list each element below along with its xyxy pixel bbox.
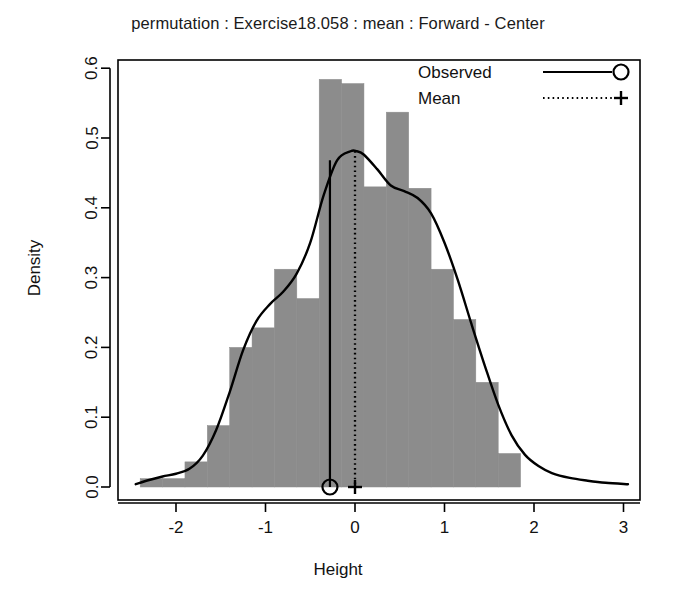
histogram-bar (386, 112, 408, 487)
y-axis-tick-label: 0.1 (83, 405, 102, 429)
histogram-bar (431, 269, 453, 487)
histogram-bar (274, 269, 296, 487)
x-axis-tick-label: 2 (529, 518, 538, 537)
x-axis-tick-label: 0 (350, 518, 359, 537)
histogram-bar (297, 299, 319, 487)
histogram-bar (453, 319, 475, 487)
legend-circle-icon (614, 65, 629, 80)
x-axis: -2-10123 (118, 503, 640, 537)
x-axis-tick-label: 1 (440, 518, 449, 537)
histogram-bar (409, 188, 431, 487)
legend-plus-icon (614, 91, 628, 105)
y-axis-tick-label: 0.2 (83, 336, 102, 360)
histogram-bar (342, 84, 364, 487)
histogram-bar (498, 454, 520, 488)
y-axis: 0.00.10.20.30.40.50.6 (83, 56, 111, 498)
histogram-bar (252, 328, 274, 487)
histogram-bar (163, 479, 185, 487)
y-axis-tick-label: 0.5 (83, 126, 102, 150)
x-axis-tick-label: 3 (619, 518, 628, 537)
legend-label-mean: Mean (418, 89, 461, 108)
histogram-bar (230, 347, 252, 487)
x-axis-tick-label: -1 (258, 518, 273, 537)
y-axis-tick-label: 0.4 (83, 196, 102, 220)
y-axis-tick-label: 0.3 (83, 266, 102, 290)
plot-area: -2-10123 0.00.10.20.30.40.50.6 ObservedM… (0, 0, 676, 609)
y-axis-tick-label: 0.6 (83, 56, 102, 80)
x-axis-tick-label: -2 (168, 518, 183, 537)
chart-canvas: permutation : Exercise18.058 : mean : Fo… (0, 0, 676, 609)
y-axis-tick-label: 0.0 (83, 475, 102, 499)
histogram-bar (185, 462, 207, 487)
legend-label-observed: Observed (418, 63, 492, 82)
histogram-bar (364, 187, 386, 487)
histogram-bar (207, 426, 229, 487)
chart-legend: ObservedMean (418, 63, 629, 108)
